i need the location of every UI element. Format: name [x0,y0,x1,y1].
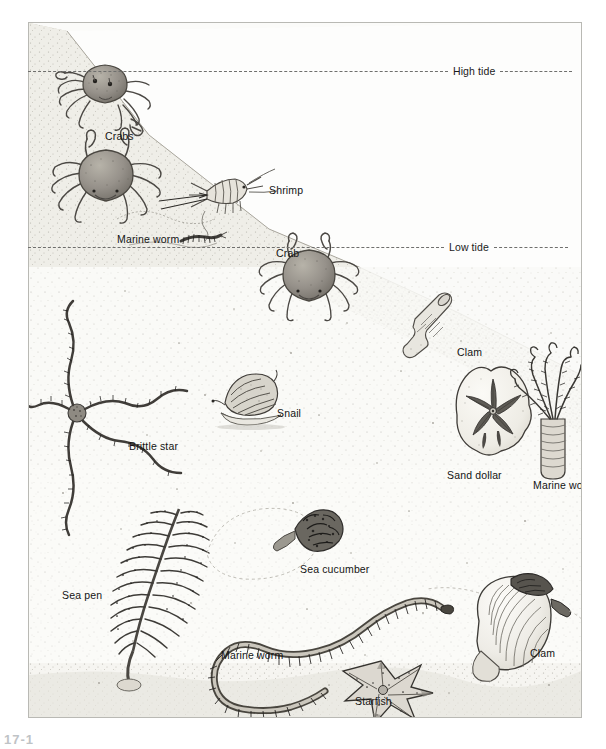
illustration-canvas [29,23,581,717]
figure-root: Crabs Shrimp Marine worm Crab Clam Snail… [0,0,606,749]
label-starfish: Starfish [355,696,392,707]
label-sea-cucumber: Sea cucumber [300,564,370,575]
low-tide-label: Low tide [444,241,494,253]
label-sand-dollar: Sand dollar [447,470,502,481]
label-marine-worm-large: Marine worm [221,650,283,661]
label-shrimp: Shrimp [269,185,303,196]
label-brittle-star: Brittle star [129,441,178,452]
high-tide-dash-left [28,71,448,72]
label-snail: Snail [277,408,301,419]
high-tide-dash-right [500,71,572,72]
label-clam-shell: Clam [530,648,555,659]
label-crabs: Crabs [105,131,134,142]
label-clam-siphon: Clam [457,347,482,358]
illustration-plate: Crabs Shrimp Marine worm Crab Clam Snail… [28,22,582,718]
label-sea-pen: Sea pen [62,590,102,601]
figure-caption-partial: 17-1 [4,733,34,745]
low-tide-dash-right [494,247,568,248]
high-tide-label: High tide [448,65,500,77]
label-marine-worm-tube: Marine worm [533,480,582,491]
low-tide-line: Low tide [28,240,584,254]
low-tide-dash-left [28,247,444,248]
high-tide-line: High tide [28,64,584,78]
